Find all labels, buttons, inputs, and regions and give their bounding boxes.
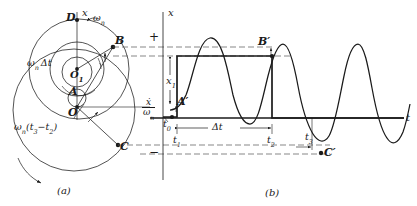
amplitude-label-x1: x1	[166, 76, 176, 89]
point-label-O: O	[68, 107, 78, 118]
caption-b: (b)	[265, 188, 279, 198]
panel-b-graphics	[150, 12, 410, 180]
time-label-t2: t2	[267, 135, 275, 147]
point-label-C-prime: C′	[324, 147, 336, 158]
time-label-t1: t1	[173, 135, 181, 147]
axis-label-a-x: x	[82, 8, 88, 18]
axis-label-b-t: t	[406, 113, 410, 123]
point-label-A: A	[69, 86, 78, 97]
point-label-B-prime: B′	[258, 36, 270, 47]
point-label-B: B	[115, 35, 124, 46]
leader-arrow-omega-t3t2	[88, 112, 98, 122]
figure-graphics	[0, 0, 417, 206]
point-label-O1: O1	[70, 70, 83, 83]
sinusoid-curve	[170, 38, 410, 143]
rotation-arc-large	[18, 158, 41, 183]
sign-negative: −	[149, 146, 159, 158]
point-B-prime	[270, 54, 274, 58]
omega-n-delta-t-label: ωn Δt	[27, 58, 52, 70]
panel-b-points	[170, 54, 323, 155]
figure-container: x ωn D B ωn Δt O1 A O ωn(t3−t2) C (a) x …	[0, 0, 417, 206]
panel-a-graphics	[13, 12, 150, 183]
point-C-prime	[319, 151, 323, 155]
interval-label-delta-t: Δt	[212, 122, 223, 132]
point-label-C: C	[120, 141, 129, 152]
sign-positive: +	[149, 31, 159, 43]
point-label-A-prime: A′	[177, 96, 188, 107]
omega-n-t3-t2-label: ωn(t3−t2)	[14, 122, 57, 134]
point-label-D: D	[66, 12, 76, 23]
time-label-t0: t0	[163, 119, 171, 131]
axis-label-b-x: x	[168, 8, 174, 18]
omega-n-label-a: ωn	[93, 13, 105, 25]
time-label-t3: t3	[305, 132, 313, 144]
caption-a: (a)	[57, 186, 71, 196]
velocity-ratio-label: ẋ ωn	[142, 98, 155, 120]
